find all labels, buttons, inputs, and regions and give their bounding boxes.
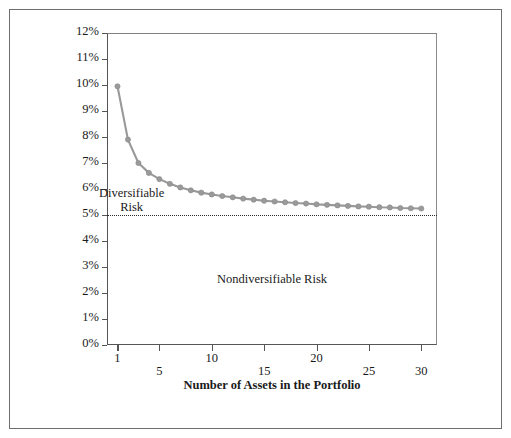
data-point bbox=[283, 200, 288, 205]
y-tick-label: 12% bbox=[59, 24, 99, 39]
data-point bbox=[408, 206, 413, 211]
y-tick-label: 2% bbox=[59, 284, 99, 299]
data-point bbox=[220, 193, 225, 198]
data-point bbox=[115, 84, 120, 89]
data-point bbox=[230, 195, 235, 200]
data-point bbox=[356, 204, 361, 209]
data-point bbox=[241, 196, 246, 201]
x-tick-mark bbox=[369, 345, 370, 351]
data-point bbox=[251, 197, 256, 202]
annotation-diversifiable-line1: Diversifiable bbox=[99, 186, 164, 200]
data-point bbox=[387, 205, 392, 210]
data-point bbox=[167, 181, 172, 186]
data-point bbox=[199, 190, 204, 195]
x-tick-mark bbox=[264, 345, 265, 351]
data-point bbox=[345, 203, 350, 208]
data-point bbox=[146, 170, 151, 175]
x-tick-label-30: 30 bbox=[406, 364, 436, 379]
y-tick-label: 8% bbox=[59, 128, 99, 143]
x-tick-label-20: 20 bbox=[302, 351, 332, 366]
data-point bbox=[303, 201, 308, 206]
y-tick-label: 3% bbox=[59, 258, 99, 273]
data-point bbox=[398, 205, 403, 210]
y-tick-label: 1% bbox=[59, 310, 99, 325]
y-tick-label: 5% bbox=[59, 206, 99, 221]
y-tick-label: 4% bbox=[59, 232, 99, 247]
data-point bbox=[209, 192, 214, 197]
data-point bbox=[125, 137, 130, 142]
plot-area: 0%1%2%3%4%5%6%7%8%9%10%11%12% 1510152025… bbox=[107, 33, 437, 345]
x-axis-title: Number of Assets in the Portfolio bbox=[107, 378, 437, 393]
y-tick-label: 7% bbox=[59, 154, 99, 169]
data-point bbox=[157, 177, 162, 182]
figure-container: Standard Deviation of Portfolio Expected… bbox=[0, 0, 511, 438]
y-tick-label: 11% bbox=[59, 50, 99, 65]
y-tick-label: 6% bbox=[59, 180, 99, 195]
x-tick-mark bbox=[421, 345, 422, 351]
x-tick-mark bbox=[159, 345, 160, 351]
x-tick-label-5: 5 bbox=[144, 364, 174, 379]
data-point bbox=[335, 203, 340, 208]
data-point bbox=[314, 202, 319, 207]
data-point bbox=[419, 206, 424, 211]
x-tick-label-1: 1 bbox=[102, 351, 132, 366]
y-tick-label: 9% bbox=[59, 102, 99, 117]
x-tick-label-10: 10 bbox=[197, 351, 227, 366]
y-tick-label: 10% bbox=[59, 76, 99, 91]
data-point bbox=[324, 202, 329, 207]
annotation-nondiversifiable-risk: Nondiversifiable Risk bbox=[107, 272, 437, 286]
data-point bbox=[262, 198, 267, 203]
data-point bbox=[272, 199, 277, 204]
data-point bbox=[178, 185, 183, 190]
x-tick-label-25: 25 bbox=[354, 364, 384, 379]
data-point bbox=[293, 200, 298, 205]
data-point bbox=[366, 204, 371, 209]
annotation-diversifiable-line2: Risk bbox=[99, 200, 164, 214]
data-point bbox=[136, 160, 141, 165]
x-tick-label-15: 15 bbox=[249, 364, 279, 379]
y-tick-label: 0% bbox=[59, 336, 99, 351]
data-point bbox=[377, 205, 382, 210]
data-point bbox=[188, 188, 193, 193]
annotation-diversifiable-risk: Diversifiable Risk bbox=[99, 186, 164, 214]
